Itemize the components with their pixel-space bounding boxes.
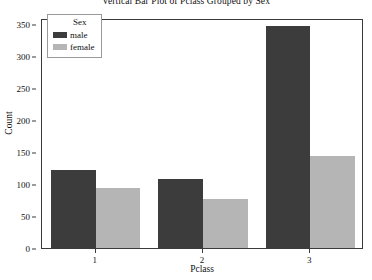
y-tick-label: 250 (17, 85, 31, 94)
chart-title: Vertical Bar Plot of Pclass Grouped by S… (0, 0, 372, 7)
y-tick-label: 100 (17, 181, 31, 190)
y-tick-label: 350 (17, 21, 31, 30)
y-tick-label: 200 (17, 117, 31, 126)
bar-2-male (158, 179, 203, 248)
legend-swatch-female (53, 44, 67, 50)
legend-label: female (70, 43, 94, 52)
x-tick-mark (95, 249, 96, 253)
legend-swatch-male (53, 32, 67, 38)
y-tick-label: 150 (17, 149, 31, 158)
y-tick-mark (32, 25, 36, 26)
y-tick-mark (32, 153, 36, 154)
legend-title: Sex (53, 17, 94, 28)
y-axis-title: Count (4, 93, 14, 153)
bar-3-female (310, 156, 355, 248)
y-tick-label: 0 (26, 245, 31, 254)
bar-1-female (96, 188, 141, 248)
legend-entries: malefemale (53, 29, 94, 53)
x-axis-title: Pclass (41, 264, 363, 274)
x-tick-mark (202, 249, 203, 253)
y-tick-label: 50 (21, 213, 30, 222)
legend: Sex malefemale (47, 14, 102, 58)
y-tick-mark (32, 217, 36, 218)
y-tick-mark (32, 57, 36, 58)
bar-3-male (266, 26, 311, 248)
x-tick-mark (309, 249, 310, 253)
y-tick-mark (32, 249, 36, 250)
y-tick-mark (32, 89, 36, 90)
bar-2-female (203, 199, 248, 248)
y-tick-mark (32, 185, 36, 186)
y-tick-label: 300 (17, 53, 31, 62)
legend-item-female[interactable]: female (53, 41, 94, 53)
bar-chart-figure: Vertical Bar Plot of Pclass Grouped by S… (0, 0, 372, 280)
y-tick-mark (32, 121, 36, 122)
legend-label: male (70, 31, 88, 40)
legend-item-male[interactable]: male (53, 29, 94, 41)
bar-1-male (51, 170, 96, 248)
